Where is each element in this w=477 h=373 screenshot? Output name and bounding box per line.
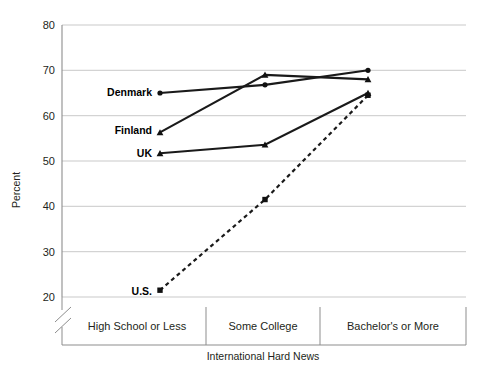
y-tick-30: 30 [43,246,55,258]
series-label-denmark: Denmark [107,86,152,98]
series-label-us: U.S. [132,285,153,297]
category-label-3: Bachelor's or More [347,320,439,332]
data-point [262,197,267,202]
x-axis-title: International Hard News [207,350,320,362]
y-tick-60: 60 [43,110,55,122]
gridlines [62,25,466,297]
line-chart: 80 70 60 50 40 30 20 Percent High School… [0,0,477,373]
series-denmark [157,68,370,96]
series-line [160,95,368,290]
y-tick-70: 70 [43,64,55,76]
series-layer [157,68,372,293]
data-point [157,90,162,95]
y-tick-50: 50 [43,155,55,167]
series-finland [157,72,372,136]
data-point [365,68,370,73]
y-tick-80: 80 [43,19,55,31]
data-point [262,82,267,87]
series-label-finland: Finland [115,124,152,136]
y-axis-title: Percent [10,172,22,208]
y-tick-20: 20 [43,291,55,303]
category-label-2: Some College [228,320,297,332]
series-us [157,93,370,293]
data-point [157,288,162,293]
y-tick-40: 40 [43,200,55,212]
category-label-1: High School or Less [88,320,187,332]
series-label-uk: UK [137,147,153,159]
chart-container: 80 70 60 50 40 30 20 Percent High School… [0,0,477,373]
axis-break-mark [55,297,71,345]
data-point [365,93,370,98]
